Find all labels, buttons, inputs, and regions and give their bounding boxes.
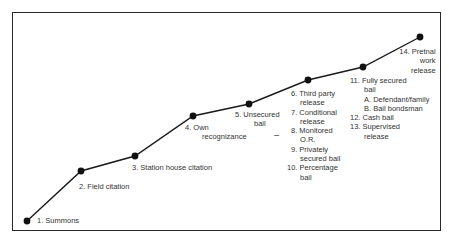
label-text: 1. Summons: [37, 216, 79, 225]
label-text: 13. Supervised: [350, 122, 429, 131]
point-2: [78, 168, 85, 175]
label-text: 14. Pretnal: [399, 47, 436, 56]
label-unsecured-bail: 5. Unsecured bail: [235, 110, 280, 129]
point-3: [132, 153, 139, 160]
point-1: [24, 218, 31, 225]
label-text: 8. Monitored: [291, 126, 340, 135]
label-text: 10. Percentage: [287, 163, 340, 172]
label-text: 5. Unsecured: [235, 110, 280, 119]
label-text: work: [399, 56, 436, 65]
label-text: recognizance: [185, 132, 247, 141]
label-text: bail: [350, 85, 429, 94]
label-text: B. Bail bondsman: [350, 104, 429, 113]
label-text: 3. Station house citation: [132, 163, 212, 172]
label-text: O.R.: [291, 135, 340, 144]
label-text: 2. Field citation: [79, 182, 129, 191]
label-text: 9. Privately: [291, 145, 340, 154]
label-text: secured bail: [291, 154, 340, 163]
label-text: 12. Cash bail: [350, 113, 429, 122]
point-11: [360, 64, 367, 71]
label-text: release: [350, 132, 429, 141]
label-text: 11. Fully secured: [350, 76, 429, 85]
dash-text: –: [274, 130, 279, 140]
label-group-6-10: 6. Third party release 7. Conditional re…: [291, 89, 340, 182]
point-6: [305, 77, 312, 84]
point-5: [246, 101, 253, 108]
label-text: release: [399, 66, 436, 75]
dash-mark: –: [274, 131, 279, 140]
label-text: release: [291, 117, 340, 126]
label-text: bail: [291, 173, 340, 182]
label-group-11-13: 11. Fully secured bail A. Defendant/fami…: [350, 76, 429, 141]
label-pretrial-work-release: 14. Pretnal work release: [399, 47, 436, 75]
label-text: 7. Conditional: [291, 108, 340, 117]
label-summons: 1. Summons: [37, 216, 79, 225]
label-station-house-citation: 3. Station house citation: [132, 163, 212, 172]
point-14: [417, 34, 424, 41]
label-text: release: [291, 98, 340, 107]
label-field-citation: 2. Field citation: [79, 182, 129, 191]
label-text: 6. Third party: [291, 89, 340, 98]
label-text: bail: [235, 119, 280, 128]
label-text: A. Defendant/family: [350, 95, 429, 104]
point-4: [190, 113, 197, 120]
